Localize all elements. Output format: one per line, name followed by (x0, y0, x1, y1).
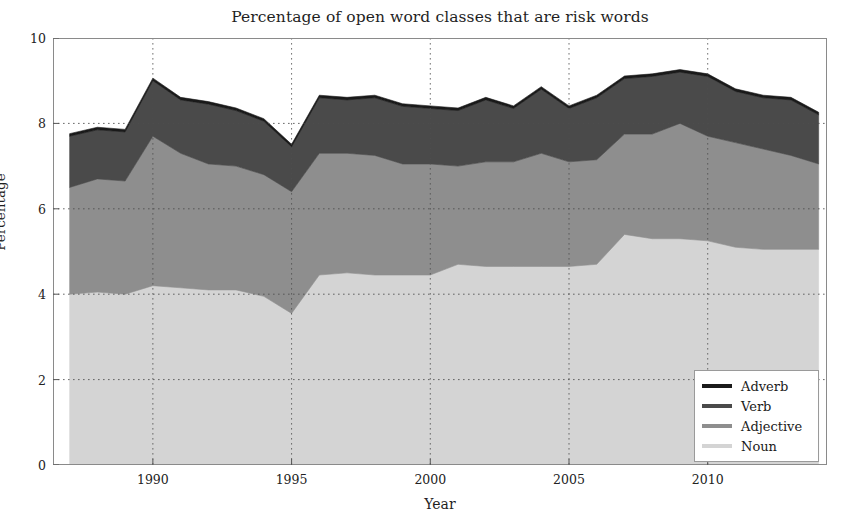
x-axis-label: Year (53, 496, 827, 512)
legend-swatch-adjective (702, 424, 732, 428)
y-tick-label-10: 10 (4, 31, 46, 46)
y-tick-label-0: 0 (4, 458, 46, 473)
legend-item-verb[interactable]: Verb (702, 396, 812, 416)
chart-legend[interactable]: AdverbVerbAdjectiveNoun (694, 370, 819, 462)
legend-swatch-adverb (702, 384, 732, 388)
legend-swatch-verb (702, 404, 732, 408)
y-axis-ticks: 1086420 (0, 38, 46, 465)
legend-item-noun[interactable]: Noun (702, 436, 812, 456)
chart-figure: Percentage of open word classes that are… (0, 0, 847, 529)
legend-item-adjective[interactable]: Adjective (702, 416, 812, 436)
legend-swatch-noun (702, 444, 732, 448)
x-tick-label-1990: 1990 (137, 472, 169, 487)
x-tick-label-1995: 1995 (276, 472, 308, 487)
y-tick-label-8: 8 (4, 116, 46, 131)
y-tick-label-2: 2 (4, 372, 46, 387)
x-tick-label-2005: 2005 (553, 472, 585, 487)
y-axis-label: Percentage (0, 173, 8, 250)
chart-title: Percentage of open word classes that are… (53, 8, 827, 26)
y-tick-label-6: 6 (4, 201, 46, 216)
x-tick-label-2010: 2010 (692, 472, 724, 487)
y-tick-label-4: 4 (4, 287, 46, 302)
legend-item-adverb[interactable]: Adverb (702, 376, 812, 396)
legend-label-noun: Noun (741, 440, 777, 453)
legend-label-verb: Verb (741, 400, 771, 413)
legend-label-adjective: Adjective (741, 420, 802, 433)
legend-label-adverb: Adverb (741, 380, 788, 393)
x-tick-label-2000: 2000 (414, 472, 446, 487)
